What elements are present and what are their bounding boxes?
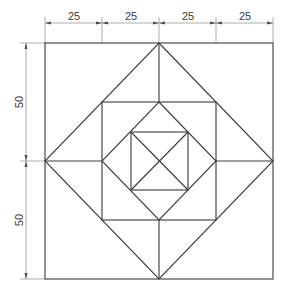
- arrow-icon: [153, 22, 159, 25]
- arrow-icon: [216, 22, 222, 25]
- arrow-icon: [210, 22, 216, 25]
- dimension-label: 50: [13, 96, 25, 108]
- arrow-icon: [102, 22, 108, 25]
- dimension-label: 50: [13, 214, 25, 226]
- arrow-icon: [45, 22, 51, 25]
- dimension-label: 25: [125, 10, 137, 22]
- top-dimension-chain: 25 25 25 25: [45, 10, 273, 43]
- arrow-icon: [25, 161, 28, 167]
- geometry: [45, 43, 273, 279]
- arrow-icon: [96, 22, 102, 25]
- arrow-icon: [159, 22, 165, 25]
- left-dimension-chain: 50 50: [13, 43, 45, 279]
- technical-drawing: 25 25 25 25 50 50: [0, 0, 283, 294]
- dimension-label: 25: [68, 10, 80, 22]
- arrow-icon: [25, 43, 28, 49]
- dimension-label: 25: [239, 10, 251, 22]
- arrow-icon: [25, 155, 28, 161]
- dimension-label: 25: [182, 10, 194, 22]
- arrow-icon: [267, 22, 273, 25]
- arrow-icon: [25, 273, 28, 279]
